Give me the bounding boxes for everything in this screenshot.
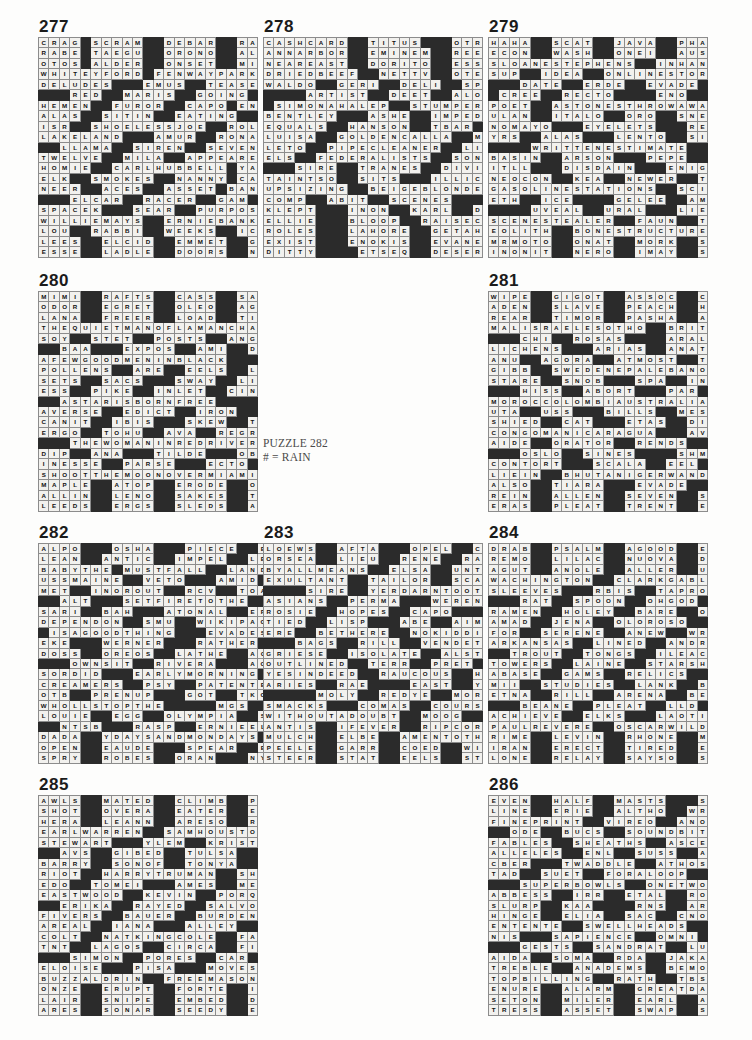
grid-cell-block <box>624 480 634 490</box>
grid-cell-letter: C <box>216 952 226 962</box>
grid-cell-block <box>645 585 655 595</box>
grid-cell-letter: U <box>164 617 174 627</box>
grid-cell-letter: A <box>603 333 613 343</box>
grid-cell-letter: L <box>572 910 582 920</box>
grid-cell-letter: N <box>305 596 315 606</box>
grid-cell-letter: A <box>347 100 357 110</box>
grid-cell-letter: A <box>489 564 499 574</box>
grid-cell-letter: A <box>305 132 315 142</box>
grid-cell-block <box>164 100 174 110</box>
grid-cell-letter: O <box>174 753 184 763</box>
grid-cell-block <box>431 648 441 658</box>
grid-cell-letter: M <box>378 596 388 606</box>
grid-cell-letter: L <box>247 48 257 58</box>
grid-cell-letter: M <box>509 121 519 131</box>
grid-cell-letter: R <box>122 302 132 312</box>
grid-cell-block <box>410 711 420 721</box>
grid-cell-block <box>195 700 205 710</box>
grid-cell-letter: N <box>112 554 122 564</box>
grid-cell-letter: E <box>326 163 336 173</box>
grid-cell-letter: T <box>441 585 451 595</box>
grid-cell-letter: O <box>499 753 509 763</box>
grid-cell-letter: C <box>305 38 315 48</box>
grid-cell-letter: I <box>451 163 461 173</box>
grid-cell-letter: R <box>368 627 378 637</box>
grid-cell-letter: T <box>216 596 226 606</box>
grid-cell-letter: A <box>39 490 49 500</box>
grid-row: NTSBRASPERNIEELS <box>39 721 279 731</box>
grid-cell-block <box>226 173 236 183</box>
grid-cell-letter: M <box>91 952 101 962</box>
grid-cell-letter: H <box>247 869 257 879</box>
grid-cell-letter: T <box>59 585 69 595</box>
grid-cell-letter: R <box>420 585 430 595</box>
grid-cell-letter: A <box>624 544 634 554</box>
grid-cell-block <box>206 575 216 585</box>
grid-cell-block <box>645 931 655 941</box>
grid-cell-letter: O <box>185 247 195 257</box>
puzzle-278: 278CASHCARDTITUSOTRANNARBOREMINEMREENEAR… <box>263 18 483 258</box>
grid-cell-letter: A <box>489 711 499 721</box>
grid-cell-letter: E <box>389 564 399 574</box>
grid-cell-letter: O <box>520 184 530 194</box>
grid-row: WHITEYFORDFENWAYPARK <box>39 69 258 79</box>
grid-cell-letter: S <box>132 215 142 225</box>
grid-cell-letter: E <box>326 152 336 162</box>
grid-cell-block <box>562 247 572 257</box>
grid-cell-block <box>624 606 634 616</box>
grid-cell-letter: S <box>132 942 142 952</box>
grid-cell-block <box>603 111 613 121</box>
grid-cell-block <box>530 554 540 564</box>
grid-cell-block <box>593 721 603 731</box>
grid-cell-letter: A <box>368 544 378 554</box>
grid-cell-letter: S <box>509 152 519 162</box>
grid-cell-block <box>451 194 461 204</box>
grid-cell-block <box>530 111 540 121</box>
grid-cell-letter: E <box>357 554 367 564</box>
grid-cell-letter: P <box>676 38 686 48</box>
grid-cell-letter: P <box>509 69 519 79</box>
grid-cell-letter: I <box>316 184 326 194</box>
grid-cell-letter: T <box>357 163 367 173</box>
grid-cell-letter: R <box>49 921 59 931</box>
grid-cell-block <box>541 365 551 375</box>
grid-cell-letter: T <box>101 427 111 437</box>
grid-cell-letter: S <box>472 700 482 710</box>
grid-cell-letter: O <box>520 480 530 490</box>
grid-cell-block <box>645 837 655 847</box>
grid-cell-letter: O <box>656 100 666 110</box>
grid-cell-letter: S <box>59 890 69 900</box>
grid-cell-block <box>378 732 388 742</box>
grid-row: EQUALSHANSONTBAR <box>264 121 483 131</box>
grid-cell-letter: S <box>70 396 80 406</box>
grid-cell-letter: A <box>101 194 111 204</box>
grid-cell-letter: E <box>582 142 592 152</box>
grid-cell-letter: Y <box>274 564 284 574</box>
grid-cell-letter: N <box>164 438 174 448</box>
grid-cell-letter: I <box>656 58 666 68</box>
grid-cell-block <box>80 427 90 437</box>
grid-cell-letter: D <box>305 69 315 79</box>
grid-cell-block <box>431 90 441 100</box>
grid-cell-block <box>462 669 472 679</box>
grid-cell-block <box>472 711 482 721</box>
grid-cell-letter: T <box>39 323 49 333</box>
grid-cell-letter: S <box>509 132 519 142</box>
grid-cell-letter: N <box>520 796 530 806</box>
grid-cell-letter: T <box>614 837 624 847</box>
grid-cell-block <box>164 742 174 752</box>
grid-cell-letter: T <box>697 354 707 364</box>
grid-row: CONGOMANICARAGUAAV <box>489 427 708 437</box>
grid-cell-letter: T <box>326 711 336 721</box>
answer-grid: LOEWSAFTAOPELCORSEALIEURENERABYALLMEANSE… <box>263 543 483 764</box>
grid-cell-letter: S <box>237 869 247 879</box>
grid-cell-letter: I <box>389 48 399 58</box>
grid-cell-letter: R <box>572 333 582 343</box>
grid-cell-block <box>164 501 174 511</box>
grid-cell-block <box>122 890 132 900</box>
grid-cell-letter: S <box>541 627 551 637</box>
grid-cell-letter: U <box>274 658 284 668</box>
grid-cell-letter: P <box>295 205 305 215</box>
grid-cell-letter: G <box>697 163 707 173</box>
grid-cell-letter: L <box>39 312 49 322</box>
